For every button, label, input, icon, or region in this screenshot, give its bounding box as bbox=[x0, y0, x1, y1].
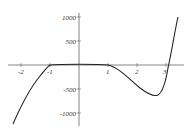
y-tick-label: -500 bbox=[63, 86, 76, 94]
y-tick-label: 500 bbox=[66, 38, 77, 46]
function-curve bbox=[13, 17, 178, 124]
x-tick-label: -2 bbox=[18, 68, 24, 76]
x-tick-label: 1 bbox=[106, 68, 110, 76]
y-tick-label: -1000 bbox=[60, 110, 77, 118]
x-tick-label: -1 bbox=[47, 68, 53, 76]
plot-svg: -2 -1 1 2 3 1000 500 -500 -1000 bbox=[0, 0, 194, 136]
function-plot: -2 -1 1 2 3 1000 500 -500 -1000 bbox=[0, 0, 194, 136]
y-tick-label: 1000 bbox=[62, 14, 77, 22]
x-tick-label: 2 bbox=[135, 68, 139, 76]
y-ticks: 1000 500 -500 -1000 bbox=[60, 14, 81, 118]
